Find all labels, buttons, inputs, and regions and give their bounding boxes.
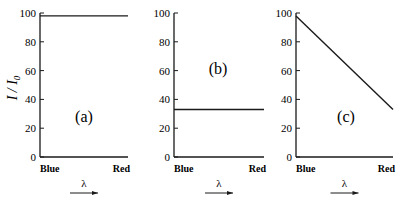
chart-figure: 020406080100BlueRedλ(a)020406080100BlueR…: [0, 0, 404, 204]
y-tick-label: 20: [25, 122, 37, 134]
y-tick-label: 40: [159, 93, 171, 105]
y-tick-label: 60: [25, 65, 37, 77]
y-tick-label: 0: [31, 151, 37, 163]
panel-label: (c): [337, 108, 355, 126]
x-category-label: Blue: [296, 163, 316, 174]
y-tick-label: 0: [287, 151, 293, 163]
y-tick-label: 0: [165, 151, 171, 163]
x-category-label: Blue: [40, 163, 60, 174]
panel-label: (a): [75, 108, 93, 126]
y-tick-label: 100: [154, 7, 171, 19]
y-tick-label: 40: [281, 93, 293, 105]
x-category-label: Red: [378, 163, 396, 174]
data-line: [296, 16, 393, 110]
y-tick-label: 80: [25, 36, 37, 48]
x-axis-label: λ: [81, 177, 87, 189]
arrowhead-icon: [92, 191, 98, 195]
y-tick-label: 40: [25, 93, 37, 105]
y-axis-title: I / I0: [5, 75, 22, 101]
x-axis-label: λ: [216, 177, 222, 189]
panel-label: (b): [209, 60, 228, 78]
y-tick-label: 80: [281, 36, 293, 48]
y-tick-label: 80: [159, 36, 171, 48]
arrowhead-icon: [353, 191, 359, 195]
y-tick-label: 20: [281, 122, 293, 134]
y-tick-label: 20: [159, 122, 171, 134]
y-tick-label: 100: [20, 7, 37, 19]
x-category-label: Blue: [174, 163, 194, 174]
y-tick-label: 100: [276, 7, 293, 19]
y-tick-label: 60: [159, 65, 171, 77]
x-axis-label: λ: [342, 177, 348, 189]
arrowhead-icon: [227, 191, 233, 195]
x-category-label: Red: [113, 163, 131, 174]
y-tick-label: 60: [281, 65, 293, 77]
x-category-label: Red: [249, 163, 267, 174]
